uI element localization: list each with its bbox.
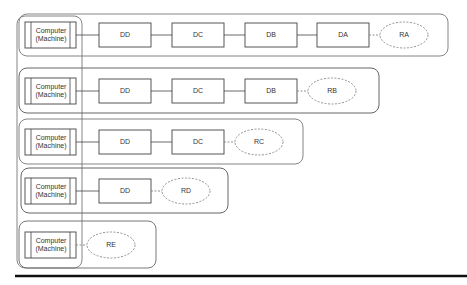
machine-box: Computer(Machine) <box>25 22 76 48</box>
svg-text:DD: DD <box>120 187 130 194</box>
machine-label: (Machine) <box>35 142 66 150</box>
svg-text:DD: DD <box>120 87 130 94</box>
node-da: DA <box>317 23 369 47</box>
svg-text:RD: RD <box>181 187 191 194</box>
machine-label: Computer <box>36 134 67 142</box>
node-dd: DD <box>99 79 151 103</box>
node-db: DB <box>245 23 297 47</box>
machine-label: (Machine) <box>35 35 66 43</box>
machine-label: (Machine) <box>35 91 66 99</box>
result-rb: RB <box>308 78 356 104</box>
machine-box: Computer(Machine) <box>25 232 76 258</box>
machine-label: Computer <box>36 183 67 191</box>
svg-text:RB: RB <box>327 87 337 94</box>
node-dc: DC <box>172 130 224 154</box>
pipeline-diagram: Computer(Machine)DDDCDBDARAComputer(Mach… <box>0 0 467 285</box>
diagram-row: Computer(Machine)DDDCDBDARA <box>25 22 428 48</box>
svg-text:DB: DB <box>266 87 276 94</box>
machine-box: Computer(Machine) <box>25 178 76 204</box>
machine-label: Computer <box>36 27 67 35</box>
machine-label: (Machine) <box>35 191 66 199</box>
result-ra: RA <box>380 22 428 48</box>
svg-text:DA: DA <box>338 31 348 38</box>
machine-box: Computer(Machine) <box>25 78 76 104</box>
svg-text:DC: DC <box>193 87 203 94</box>
svg-text:RA: RA <box>399 31 409 38</box>
diagram-row: Computer(Machine)DDDCDBRB <box>25 78 356 104</box>
diagram-row: Computer(Machine)DDDCRC <box>25 129 283 155</box>
svg-text:RC: RC <box>254 138 264 145</box>
svg-text:DB: DB <box>266 31 276 38</box>
diagram-row: Computer(Machine)RE <box>25 232 135 258</box>
svg-text:DC: DC <box>193 138 203 145</box>
svg-text:DD: DD <box>120 31 130 38</box>
machine-label: Computer <box>36 237 67 245</box>
node-dd: DD <box>99 23 151 47</box>
node-db: DB <box>245 79 297 103</box>
svg-text:DC: DC <box>193 31 203 38</box>
result-re: RE <box>87 232 135 258</box>
node-dd: DD <box>99 130 151 154</box>
svg-text:DD: DD <box>120 138 130 145</box>
node-dc: DC <box>172 79 224 103</box>
machine-label: (Machine) <box>35 245 66 253</box>
diagram-row: Computer(Machine)DDRD <box>25 178 210 204</box>
node-dd: DD <box>99 179 151 203</box>
machine-box: Computer(Machine) <box>25 129 76 155</box>
result-rc: RC <box>235 129 283 155</box>
machine-label: Computer <box>36 83 67 91</box>
svg-text:RE: RE <box>106 241 116 248</box>
node-dc: DC <box>172 23 224 47</box>
result-rd: RD <box>162 178 210 204</box>
